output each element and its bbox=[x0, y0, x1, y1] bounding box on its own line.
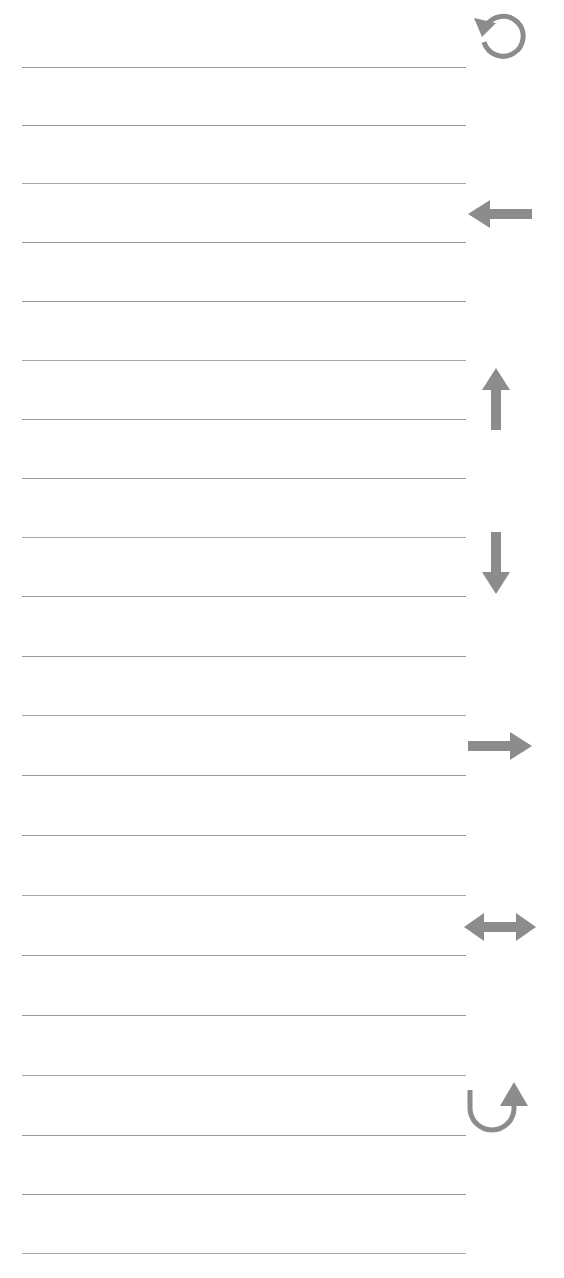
rotate-counterclockwise-icon bbox=[470, 6, 534, 66]
rule-line-9 bbox=[22, 537, 466, 538]
rule-line-5 bbox=[22, 301, 466, 302]
rule-line-20 bbox=[22, 1194, 466, 1195]
rule-line-6 bbox=[22, 360, 466, 361]
arrow-curve-up-right-icon bbox=[462, 1082, 530, 1138]
rule-line-1 bbox=[22, 67, 466, 68]
ruled-page bbox=[0, 0, 564, 1278]
arrow-right-icon bbox=[468, 728, 532, 764]
rule-line-15 bbox=[22, 895, 466, 896]
rule-line-7 bbox=[22, 419, 466, 420]
rule-line-12 bbox=[22, 715, 466, 716]
arrow-left-icon bbox=[468, 196, 532, 232]
rule-line-21 bbox=[22, 1253, 466, 1254]
arrow-up-icon bbox=[478, 368, 514, 430]
rule-line-2 bbox=[22, 125, 466, 126]
rule-line-8 bbox=[22, 478, 466, 479]
rule-line-11 bbox=[22, 656, 466, 657]
rule-line-17 bbox=[22, 1015, 466, 1016]
rule-line-18 bbox=[22, 1075, 466, 1076]
rule-line-16 bbox=[22, 955, 466, 956]
rule-line-3 bbox=[22, 183, 466, 184]
rule-line-19 bbox=[22, 1135, 466, 1136]
rule-line-4 bbox=[22, 242, 466, 243]
rule-line-13 bbox=[22, 775, 466, 776]
rule-line-14 bbox=[22, 835, 466, 836]
rule-line-10 bbox=[22, 596, 466, 597]
arrow-down-icon bbox=[478, 532, 514, 594]
arrow-left-right-icon bbox=[464, 908, 536, 946]
